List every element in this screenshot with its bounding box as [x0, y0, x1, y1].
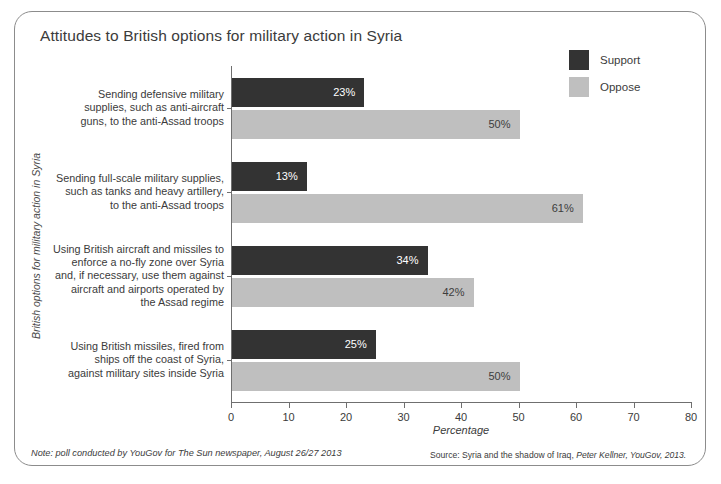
category-label: Sending full-scale military supplies,suc… [28, 172, 224, 212]
footnote-source: Source: Syria and the shadow of Iraq, Pe… [430, 450, 686, 460]
bar-group: 23%50% [231, 78, 691, 139]
bar-value-label: 23% [333, 86, 364, 98]
x-tick-label: 20 [340, 411, 352, 423]
bar-oppose[interactable]: 61% [232, 194, 583, 223]
bar-value-label: 25% [345, 338, 376, 350]
category-tick [227, 192, 232, 193]
legend-item-label: Support [600, 54, 640, 66]
bar-group: 13%61% [231, 162, 691, 223]
page-title: Attitudes to British options for militar… [40, 27, 402, 45]
x-tick-mark [519, 402, 520, 408]
bar-value-label: 50% [488, 118, 519, 130]
x-tick-label: 70 [627, 411, 639, 423]
category-label-line: the Assad regime [28, 296, 224, 309]
bar-oppose[interactable]: 50% [232, 362, 520, 391]
bar-support[interactable]: 25% [232, 330, 376, 359]
x-tick-label: 80 [685, 411, 697, 423]
bar-value-label: 13% [276, 170, 307, 182]
category-label-line: against military sites inside Syria [28, 367, 224, 380]
bar-value-label: 61% [552, 202, 583, 214]
x-tick-label: 40 [455, 411, 467, 423]
category-label-line: Using British aircraft and missiles to [28, 243, 224, 256]
category-label-line: aircraft and airports operated by [28, 283, 224, 296]
x-tick-mark [634, 402, 635, 408]
bar-group: 25%50% [231, 330, 691, 391]
bar-value-label: 42% [442, 286, 473, 298]
bar-support[interactable]: 34% [232, 246, 428, 275]
category-label: Sending defensive militarysupplies, such… [28, 88, 224, 128]
bar-group: 34%42% [231, 246, 691, 307]
x-tick-mark [346, 402, 347, 408]
x-tick-label: 0 [228, 411, 234, 423]
source-author: Peter Kellner, YouGov, 2013. [576, 450, 686, 460]
x-axis-title: Percentage [231, 424, 691, 436]
bar-oppose[interactable]: 50% [232, 110, 520, 139]
plot-area: 23%50%13%61%34%42%25%50% 010203040506070… [231, 66, 691, 402]
category-label-line: guns, to the anti-Assad troops [28, 115, 224, 128]
category-label-line: Using British missiles, fired from [28, 340, 224, 353]
category-label: Using British missiles, fired fromships … [28, 340, 224, 380]
x-tick-mark [231, 402, 232, 408]
category-label-line: ships off the coast of Syria, [28, 353, 224, 366]
category-tick [227, 360, 232, 361]
chart-page: Attitudes to British options for militar… [0, 0, 721, 484]
x-tick-mark [576, 402, 577, 408]
bar-value-label: 50% [488, 370, 519, 382]
source-prefix: Source: Syria and the shadow of Iraq, [430, 450, 576, 460]
category-label-line: such as tanks and heavy artillery, [28, 185, 224, 198]
category-label-line: and, if necessary, use them against [28, 269, 224, 282]
category-tick [227, 108, 232, 109]
category-label-line: Sending full-scale military supplies, [28, 172, 224, 185]
x-tick-mark [461, 402, 462, 408]
x-tick-mark [691, 402, 692, 408]
category-label: Using British aircraft and missiles toen… [28, 243, 224, 310]
x-tick-label: 50 [512, 411, 524, 423]
bar-support[interactable]: 13% [232, 162, 307, 191]
bar-value-label: 34% [396, 254, 427, 266]
bar-support[interactable]: 23% [232, 78, 364, 107]
category-label-line: supplies, such as anti-aircraft [28, 101, 224, 114]
x-tick-mark [289, 402, 290, 408]
category-label-line: enforce a no-fly zone over Syria [28, 256, 224, 269]
category-tick [227, 276, 232, 277]
x-tick-label: 10 [282, 411, 294, 423]
x-tick-label: 30 [397, 411, 409, 423]
x-tick-mark [404, 402, 405, 408]
x-tick-label: 60 [570, 411, 582, 423]
category-label-line: Sending defensive military [28, 88, 224, 101]
category-label-line: to the anti-Assad troops [28, 199, 224, 212]
footnote-note: Note: poll conducted by YouGov for The S… [31, 448, 342, 458]
bar-oppose[interactable]: 42% [232, 278, 474, 307]
